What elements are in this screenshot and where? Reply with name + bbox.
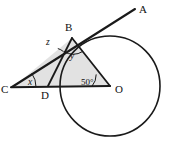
geometry-diagram: A B C D O x z y 50° bbox=[0, 0, 171, 147]
point-label-A: A bbox=[139, 3, 147, 15]
point-label-O: O bbox=[115, 83, 123, 95]
angle-label-z: z bbox=[45, 37, 50, 47]
point-label-B: B bbox=[65, 21, 72, 33]
geometry-canvas: A B C D O x z y 50° bbox=[0, 0, 171, 147]
angle-label-x: x bbox=[27, 77, 33, 87]
segment-C-to-O bbox=[11, 86, 110, 87]
point-label-C: C bbox=[1, 83, 8, 95]
point-label-D: D bbox=[41, 89, 49, 101]
angle-label-y: y bbox=[69, 51, 75, 61]
angle-label-50-degrees: 50° bbox=[81, 77, 94, 87]
